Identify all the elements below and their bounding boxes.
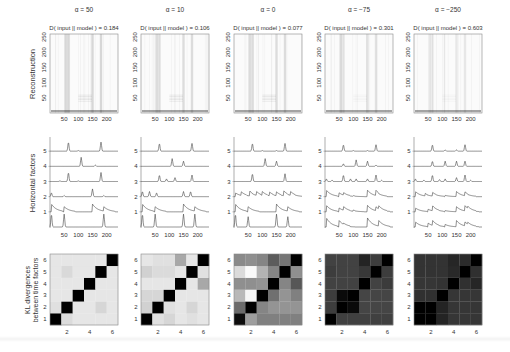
kl-cell: [414, 301, 426, 313]
y-tick-label: 5: [318, 269, 322, 275]
kl-cell: [370, 254, 382, 266]
kl-cell: [382, 313, 394, 325]
kl-cell: [471, 278, 483, 290]
kl-cell: [425, 290, 437, 302]
reconstruction-faint-stripe: [67, 34, 68, 113]
reconstruction-faint-stripe: [385, 34, 386, 113]
reconstruction-bottom-band: [235, 110, 301, 112]
x-tick-label: 150: [362, 116, 373, 122]
x-tick-label: 100: [437, 232, 448, 238]
x-tick-label: 50: [336, 116, 343, 122]
kl-cell: [257, 290, 269, 302]
x-tick-label: 200: [377, 232, 388, 238]
x-tick-label: 4: [363, 329, 367, 335]
kl-cell: [186, 278, 198, 290]
factor-index-label: 1: [43, 209, 47, 215]
reconstruction-bottom-band: [51, 110, 117, 112]
kl-cell: [325, 313, 337, 325]
kl-cell: [175, 301, 187, 313]
reconstruction-dash: [262, 101, 276, 102]
reconstruction-faint-stripe: [280, 34, 281, 113]
y-tick-label: 100: [41, 77, 47, 88]
reconstruction-dash: [442, 99, 456, 100]
kl-cell: [73, 278, 85, 290]
kl-cell: [164, 266, 176, 278]
factor-index-label: 1: [227, 209, 231, 215]
figure-canvas: Reconstruction Horizontal factors KL div…: [0, 0, 510, 352]
x-tick-label: 50: [245, 116, 252, 122]
reconstruction-faint-stripe: [341, 34, 342, 113]
y-tick-label: 6: [407, 257, 411, 263]
kl-cell: [95, 254, 107, 266]
kl-cell: [279, 278, 291, 290]
kl-cell: [141, 301, 153, 313]
divergence-label: D( input || model ) = 0.603: [413, 25, 483, 31]
kl-cell: [425, 266, 437, 278]
kl-cell: [84, 290, 96, 302]
reconstruction-stripe: [67, 34, 69, 113]
kl-cell: [186, 313, 198, 325]
x-tick-label: 6: [295, 329, 299, 335]
kl-cell: [291, 278, 303, 290]
kl-cell: [459, 313, 471, 325]
reconstruction-faint-stripe: [144, 34, 145, 113]
reconstruction-faint-stripe: [253, 34, 254, 113]
x-tick-label: 6: [386, 329, 390, 335]
reconstruction-faint-stripe: [417, 34, 418, 113]
reconstruction-faint-stripe: [187, 34, 188, 113]
y-tick-label: 100: [316, 77, 322, 88]
y-tick-label: 1: [43, 316, 47, 322]
x-tick-label: 200: [466, 116, 477, 122]
kl-cell: [437, 266, 449, 278]
kl-cell: [459, 266, 471, 278]
kl-cell: [448, 290, 460, 302]
kl-cell: [95, 266, 107, 278]
factor-trace-4: [234, 159, 302, 167]
kl-cell: [50, 313, 62, 325]
horizontal-factors-panel: 1234550100150200: [318, 137, 393, 238]
divergence-label: D( input || model ) = 0.077: [233, 25, 303, 31]
kl-cell: [186, 266, 198, 278]
kl-cell: [257, 266, 269, 278]
row-label-kl-line1: KL divergences: [24, 266, 32, 314]
kl-cell: [370, 278, 382, 290]
factor-index-label: 2: [134, 194, 138, 200]
y-tick-label: 150: [132, 62, 138, 73]
kl-cell: [291, 313, 303, 325]
kl-cell: [198, 290, 210, 302]
kl-cell: [437, 301, 449, 313]
reconstruction-faint-stripe: [471, 34, 472, 113]
divergence-label: D( input || model ) = 0.106: [140, 25, 210, 31]
kl-cell: [61, 290, 73, 302]
kl-cell: [73, 266, 85, 278]
reconstruction-faint-stripe: [207, 34, 208, 113]
x-tick-label: 4: [179, 329, 183, 335]
x-tick-label: 100: [164, 116, 175, 122]
kl-cell: [471, 254, 483, 266]
kl-cell: [234, 313, 246, 325]
kl-cell: [245, 290, 257, 302]
y-tick-label: 6: [134, 257, 138, 263]
kl-cell: [471, 266, 483, 278]
factor-index-label: 1: [318, 209, 322, 215]
y-tick-label: 2: [407, 304, 411, 310]
factor-index-label: 3: [43, 179, 47, 185]
reconstruction-faint-stripe: [58, 34, 59, 113]
reconstruction-stripe: [64, 34, 66, 113]
kl-cell: [268, 278, 280, 290]
reconstruction-faint-stripe: [479, 34, 480, 113]
factor-trace-2: [141, 192, 209, 197]
reconstruction-faint-stripe: [205, 34, 206, 113]
kl-cell: [279, 254, 291, 266]
x-tick-label: 2: [340, 329, 344, 335]
kl-cell: [95, 313, 107, 325]
kl-cell: [325, 278, 337, 290]
y-tick-label: 2: [43, 304, 47, 310]
x-tick-label: 100: [73, 232, 84, 238]
kl-cell: [325, 301, 337, 313]
factor-trace-0: [414, 221, 482, 227]
kl-cell: [459, 290, 471, 302]
y-tick-label: 5: [134, 269, 138, 275]
divergence-label: D( input || model ) = 0.301: [324, 25, 394, 31]
factor-index-label: 2: [227, 194, 231, 200]
